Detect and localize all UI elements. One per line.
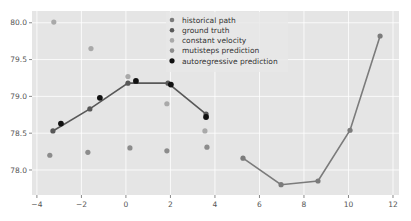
legend-label: ground truth <box>182 26 230 35</box>
legend-label: constant velocity <box>182 36 247 45</box>
mutisteps-prediction-point <box>127 145 132 150</box>
constant-velocity-point <box>88 46 93 51</box>
y-tick-label: 80.0 <box>10 18 27 27</box>
mutisteps-prediction-point <box>164 148 169 153</box>
legend-marker <box>170 28 175 33</box>
ground-truth-point <box>87 106 92 111</box>
x-tick-label: 6 <box>257 200 262 209</box>
y-tick-label: 78.5 <box>10 129 27 138</box>
constant-velocity-point <box>164 101 169 106</box>
autoregressive-prediction-point <box>168 82 174 88</box>
legend-item: mutisteps prediction <box>170 46 260 55</box>
historical-path-point <box>278 182 283 187</box>
constant-velocity-point <box>51 19 56 24</box>
legend: historical pathground truthconstant velo… <box>166 12 288 72</box>
legend-item: constant velocity <box>170 36 247 45</box>
ground-truth-point <box>50 128 55 133</box>
historical-path-point <box>347 128 352 133</box>
x-tick-label: −2 <box>76 200 87 209</box>
mutisteps-prediction-point <box>47 153 52 158</box>
autoregressive-prediction-point <box>133 78 139 84</box>
mutisteps-prediction-point <box>85 150 90 155</box>
y-tick-label: 79.5 <box>10 55 27 64</box>
x-tick-label: 12 <box>388 200 398 209</box>
y-axis: 78.078.579.079.580.0 <box>10 18 32 174</box>
constant-velocity-point <box>202 128 207 133</box>
autoregressive-prediction-point <box>203 114 209 120</box>
x-tick-label: 2 <box>168 200 173 209</box>
legend-marker <box>170 18 175 23</box>
historical-path-point <box>315 178 320 183</box>
mutisteps-prediction-point <box>204 145 209 150</box>
x-tick-label: −4 <box>31 200 42 209</box>
legend-marker <box>170 38 175 43</box>
historical-path-point <box>240 156 245 161</box>
x-tick-label: 8 <box>302 200 307 209</box>
historical-path-point <box>377 33 382 38</box>
y-tick-label: 78.0 <box>10 166 27 175</box>
legend-item: autoregressive prediction <box>169 57 278 66</box>
legend-marker <box>169 58 174 63</box>
x-tick-label: 4 <box>213 200 218 209</box>
x-tick-label: 0 <box>124 200 129 209</box>
autoregressive-prediction-point <box>97 95 103 101</box>
autoregressive-prediction-point <box>58 121 64 127</box>
x-axis: −4−2024681012 <box>31 195 398 209</box>
legend-marker <box>170 48 175 53</box>
legend-label: historical path <box>182 16 236 25</box>
x-tick-label: 10 <box>344 200 354 209</box>
y-tick-label: 79.0 <box>10 92 27 101</box>
legend-label: autoregressive prediction <box>182 57 278 66</box>
chart: −4−2024681012 78.078.579.079.580.0 histo… <box>0 0 411 221</box>
constant-velocity-point <box>125 74 130 79</box>
ground-truth-point <box>125 81 130 86</box>
legend-label: mutisteps prediction <box>182 46 259 55</box>
